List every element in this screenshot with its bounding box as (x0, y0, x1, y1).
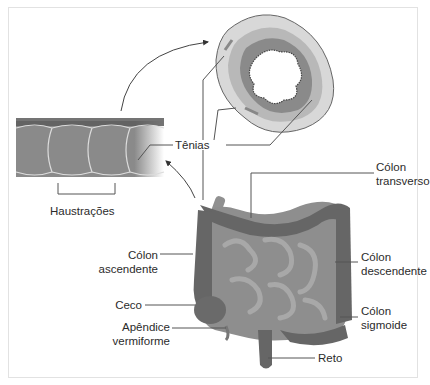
colon-segment (16, 118, 164, 177)
large-intestine (194, 195, 352, 368)
haustra-bracket (58, 183, 115, 194)
label-tenias: Tênias (175, 138, 210, 152)
arrow-to-cross-section (121, 42, 208, 111)
label-haustracoes: Haustrações (50, 204, 115, 218)
label-colon-descendente: Cólon descendente (361, 250, 427, 278)
label-reto: Reto (318, 351, 342, 365)
label-colon-ascendente: Cólon ascendente (88, 248, 158, 276)
label-ceco: Ceco (100, 298, 142, 312)
arrow-to-segment (166, 161, 195, 198)
label-colon-transverso: Cólon transverso (376, 160, 430, 188)
label-apendice-vermiforme: Apêndice vermiforme (96, 320, 170, 348)
colon-cross-section (216, 15, 334, 132)
label-colon-sigmoide: Cólon sigmoide (361, 304, 407, 332)
